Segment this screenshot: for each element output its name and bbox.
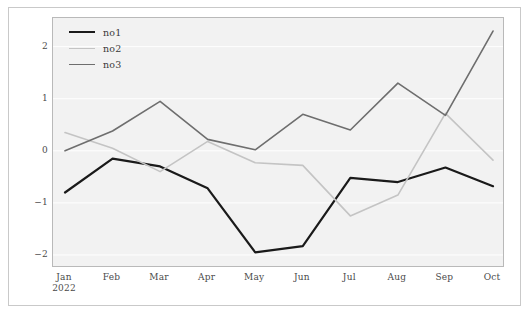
legend-label: no3 — [103, 59, 121, 70]
legend-label: no2 — [103, 43, 121, 54]
legend-label: no1 — [103, 27, 121, 38]
chart-legend: no1no2no3 — [63, 22, 129, 74]
y-tick-label: −2 — [8, 249, 48, 259]
x-tick-label-main: Jan — [56, 272, 71, 282]
x-tick-label-sub: 2022 — [34, 283, 94, 294]
legend-line-swatch — [69, 31, 95, 33]
y-tick-label: −1 — [8, 197, 48, 207]
y-tick-label: 2 — [8, 41, 48, 51]
y-tick-label: 0 — [8, 145, 48, 155]
series-line-no1 — [65, 159, 493, 253]
line-chart-figure: 210−1−2 Jan2022FebMarAprMayJunJulAugSepO… — [0, 0, 530, 314]
legend-item-no3[interactable]: no3 — [69, 58, 121, 70]
legend-item-no1[interactable]: no1 — [69, 26, 121, 38]
x-tick-label: Oct — [462, 272, 522, 283]
legend-line-swatch — [69, 64, 95, 65]
legend-item-no2[interactable]: no2 — [69, 42, 121, 54]
x-tick-label-main: Jul — [343, 272, 356, 282]
x-tick-label-main: Mar — [149, 272, 168, 282]
x-tick-label-main: Aug — [388, 272, 407, 282]
y-tick-label: 1 — [8, 93, 48, 103]
legend-line-swatch — [69, 48, 95, 49]
x-tick-label-main: Oct — [484, 272, 501, 282]
x-tick-label-main: Apr — [198, 272, 215, 282]
x-axis-tick-labels: Jan2022FebMarAprMayJunJulAugSepOct — [52, 272, 504, 306]
x-tick-label-main: Jun — [294, 272, 310, 282]
y-axis-tick-labels: 210−1−2 — [4, 17, 48, 267]
x-tick-label-main: May — [244, 272, 264, 282]
x-tick-label-main: Feb — [103, 272, 120, 282]
series-line-no2 — [65, 113, 493, 216]
gridlines — [53, 47, 504, 255]
x-tick-label-main: Sep — [435, 272, 453, 282]
